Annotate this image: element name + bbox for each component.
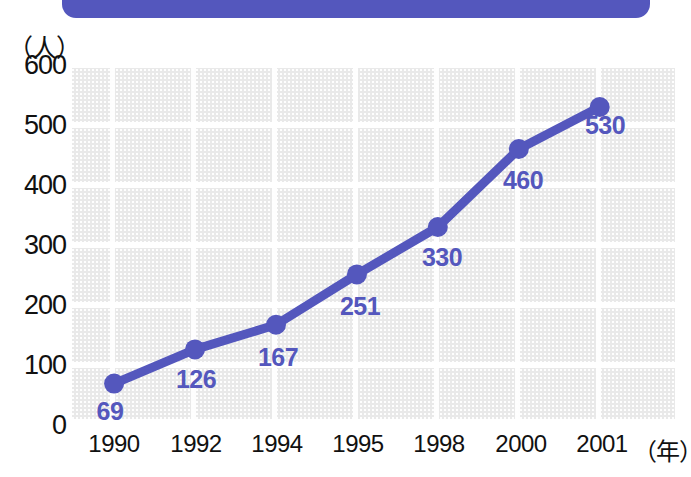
chart-figure: （人） 600 500 400 300 200 100 0 1990 1992 … (0, 0, 691, 477)
header-bar (62, 0, 650, 18)
x-tick-2001: 2001 (576, 432, 627, 456)
gridline-vertical (110, 65, 115, 425)
y-axis-tick-labels: 600 500 400 300 200 100 0 (0, 0, 66, 477)
x-tick-1998: 1998 (413, 432, 464, 456)
gridline-horizontal (72, 65, 675, 68)
y-tick-500: 500 (2, 112, 66, 139)
x-tick-1995: 1995 (332, 432, 383, 456)
data-label-126: 126 (176, 367, 216, 392)
gridline-vertical (353, 65, 358, 425)
data-label-251: 251 (340, 294, 380, 319)
y-tick-400: 400 (2, 172, 66, 199)
y-tick-200: 200 (2, 292, 66, 319)
data-label-167: 167 (258, 345, 298, 370)
gridline-vertical (272, 65, 277, 425)
x-axis-unit-label: （年） (633, 432, 691, 467)
data-label-530: 530 (585, 113, 625, 138)
x-tick-1990: 1990 (88, 432, 139, 456)
x-tick-1994: 1994 (251, 432, 302, 456)
gridline-horizontal (72, 419, 675, 425)
y-tick-0: 0 (2, 412, 66, 439)
y-tick-600: 600 (2, 52, 66, 79)
x-tick-2000: 2000 (495, 432, 546, 456)
x-tick-1992: 1992 (170, 432, 221, 456)
y-tick-300: 300 (2, 232, 66, 259)
gridline-horizontal (72, 242, 675, 248)
data-label-330: 330 (422, 245, 462, 270)
gridline-vertical (515, 65, 520, 425)
y-tick-100: 100 (2, 352, 66, 379)
gridline-horizontal (72, 362, 675, 368)
gridline-horizontal (72, 182, 675, 188)
data-label-460: 460 (503, 168, 543, 193)
data-label-69: 69 (97, 399, 124, 424)
